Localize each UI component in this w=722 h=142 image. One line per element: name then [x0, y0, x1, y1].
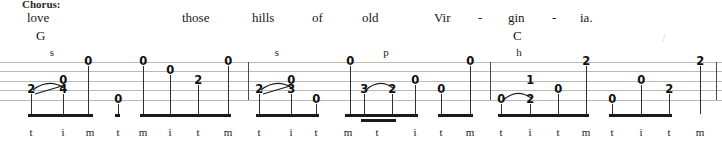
note-stem	[364, 94, 365, 114]
fret-number: 2	[665, 84, 673, 96]
fret-number: 2	[696, 56, 704, 68]
beam	[361, 119, 396, 122]
fret-number: 0	[497, 94, 505, 106]
lyric-word: -	[552, 10, 556, 26]
beam	[498, 114, 589, 117]
fingering-letter: m	[696, 126, 705, 138]
fingering-letter: i	[413, 126, 416, 138]
fret-number: 0	[437, 84, 445, 96]
tablature-sheet: Chorus: lovethosehillsofoldVir-gin-ia. G…	[0, 0, 722, 142]
slash-mark: /	[662, 30, 666, 46]
lyric-word: hills	[252, 10, 274, 26]
fingering-letter: t	[556, 126, 559, 138]
note-stem	[669, 94, 670, 114]
fret-number: 2	[255, 84, 263, 96]
note-stem	[700, 66, 701, 114]
fret-number: 0	[346, 56, 354, 68]
barline	[490, 62, 491, 100]
fret-number: 2	[526, 94, 534, 106]
note-stem	[441, 94, 442, 114]
lyric-word: love	[27, 10, 49, 26]
fingering-letter: m	[86, 126, 95, 138]
tab-staff: 2400000202300032000021020022	[0, 62, 722, 108]
lyric-word: -	[478, 10, 482, 26]
fingering-letter: m	[139, 126, 148, 138]
note-stem	[470, 66, 471, 114]
fingering-letter: t	[314, 126, 317, 138]
note-stem	[198, 85, 199, 114]
fret-number: 0	[466, 56, 474, 68]
chord-symbol: C	[513, 28, 522, 44]
fret-number: 0	[59, 75, 67, 87]
fret-number: 0	[411, 75, 419, 87]
fret-number: 0	[608, 94, 616, 106]
fret-number: 0	[139, 56, 147, 68]
note-stem	[558, 94, 559, 114]
technique-mark-slide: s	[275, 46, 279, 58]
fret-number: 2	[194, 75, 202, 87]
fret-number: 0	[554, 84, 562, 96]
lyric-word: old	[362, 10, 379, 26]
technique-mark-pull-off: p	[383, 46, 389, 58]
fret-number: 2	[582, 56, 590, 68]
fingering-letter: t	[257, 126, 260, 138]
fingering-letter: i	[639, 126, 642, 138]
lyric-word: gin	[508, 10, 525, 26]
fret-number: 0	[84, 56, 92, 68]
fret-number: 0	[224, 56, 232, 68]
fingering-letter: i	[289, 126, 292, 138]
note-stem	[415, 85, 416, 114]
lyric-word: those	[182, 10, 209, 26]
note-stem	[586, 66, 587, 114]
note-stem	[641, 85, 642, 114]
fret-number: 2	[27, 84, 35, 96]
fingering-letter: m	[582, 126, 591, 138]
fingering-letter: t	[667, 126, 670, 138]
note-stem	[392, 94, 393, 114]
lyric-word: of	[312, 10, 323, 26]
section-label: Chorus:	[22, 0, 61, 10]
fingering-letter: m	[344, 126, 353, 138]
fret-number: 3	[360, 84, 368, 96]
barline	[716, 62, 717, 100]
fingering-letter: t	[29, 126, 32, 138]
lyric-word: ia.	[580, 10, 593, 26]
fret-number: 0	[114, 94, 122, 106]
fingering-letter: t	[610, 126, 613, 138]
beam	[256, 114, 319, 117]
fingering-letter: t	[375, 126, 378, 138]
fret-number: 0	[166, 66, 174, 78]
technique-mark-hammer-on: h	[516, 46, 522, 58]
barline	[248, 62, 249, 100]
note-stem	[170, 75, 171, 114]
fret-number: 0	[637, 75, 645, 87]
technique-mark-slide: s	[50, 46, 54, 58]
fingering-letter: t	[499, 126, 502, 138]
beam	[609, 114, 672, 117]
note-stem	[143, 66, 144, 114]
fret-number: 0	[312, 94, 320, 106]
fret-number: 1	[526, 75, 534, 87]
fingering-letter: i	[168, 126, 171, 138]
fingering-letter: i	[61, 126, 64, 138]
fingering-letter: i	[528, 126, 531, 138]
beam	[140, 114, 231, 117]
staff-line	[0, 62, 722, 63]
note-stem	[228, 66, 229, 114]
chord-symbol: G	[36, 28, 45, 44]
fingering-letter: m	[466, 126, 475, 138]
fingering-letter: t	[439, 126, 442, 138]
fingering-letter: t	[116, 126, 119, 138]
beam	[438, 114, 473, 117]
fingering-letter: t	[196, 126, 199, 138]
note-stem	[350, 66, 351, 114]
note-stem	[88, 66, 89, 114]
fret-number: 2	[388, 84, 396, 96]
fingering-letter: m	[224, 126, 233, 138]
fret-number: 0	[287, 75, 295, 87]
beam	[28, 114, 93, 117]
beam	[115, 114, 120, 117]
beam	[345, 114, 418, 117]
staff-line	[0, 71, 722, 72]
lyric-word: Vir	[434, 10, 451, 26]
